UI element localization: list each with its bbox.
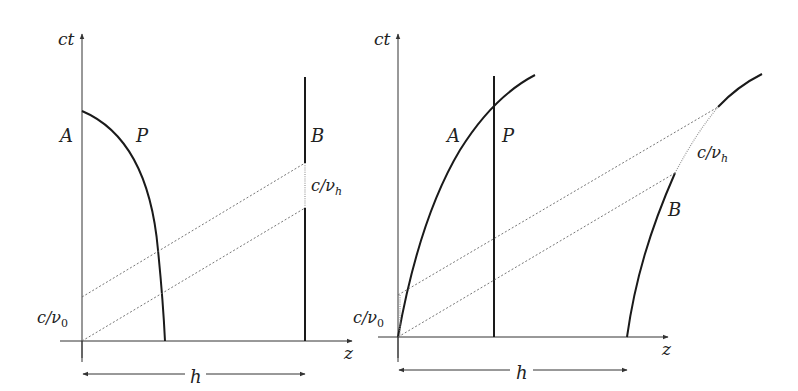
left-label-c-nu-h: c/νh bbox=[311, 176, 342, 198]
left-label-p: P bbox=[135, 125, 149, 146]
left-label-b: B bbox=[310, 125, 324, 146]
right-label-b: B bbox=[667, 199, 681, 220]
right-worldline-b-upper bbox=[718, 74, 762, 107]
right-label-a: A bbox=[445, 125, 460, 146]
right-z-label: z bbox=[661, 339, 672, 359]
left-h-label: h bbox=[190, 366, 202, 387]
left-label-c-nu-0: c/ν0 bbox=[37, 308, 68, 330]
right-label-c-nu-0: c/ν0 bbox=[353, 308, 384, 330]
right-light-signal-2 bbox=[398, 173, 675, 337]
left-light-signal-2 bbox=[82, 208, 305, 341]
left-worldline-ap bbox=[82, 111, 165, 341]
left-z-label: z bbox=[343, 343, 354, 363]
right-worldline-a bbox=[398, 75, 535, 337]
right-receiver-interval bbox=[675, 107, 718, 173]
right-worldline-b-lower bbox=[627, 173, 675, 337]
right-panel: ct z A P B c/νh c/ν0 h bbox=[353, 29, 762, 383]
right-label-c-nu-h: c/νh bbox=[697, 143, 728, 165]
left-ct-label: ct bbox=[58, 29, 75, 49]
right-label-p: P bbox=[501, 125, 515, 146]
spacetime-diagram-figure: ct z A P B c/νh c/ν0 h ct z bbox=[0, 0, 798, 391]
right-h-label: h bbox=[516, 362, 528, 383]
right-ct-label: ct bbox=[374, 29, 391, 49]
left-light-signal-1 bbox=[82, 163, 305, 297]
left-panel: ct z A P B c/νh c/ν0 h bbox=[37, 29, 354, 387]
left-label-a: A bbox=[58, 125, 73, 146]
